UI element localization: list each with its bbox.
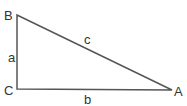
vertex-label-b: B <box>4 8 13 23</box>
vertex-label-a: A <box>174 84 183 99</box>
side-label-b: b <box>84 92 91 106</box>
vertex-label-c: C <box>4 83 13 98</box>
triangle-diagram: B a C c b A <box>0 0 187 106</box>
triangle-shape <box>17 15 172 90</box>
side-label-a: a <box>8 50 16 65</box>
side-label-c: c <box>84 32 91 47</box>
